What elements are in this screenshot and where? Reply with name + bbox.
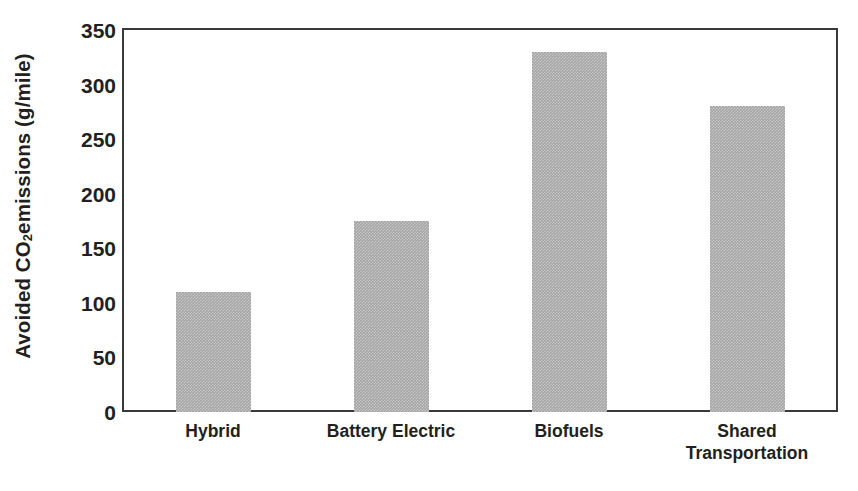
y-tick-label: 350: [44, 20, 116, 41]
plot-area: [124, 30, 836, 412]
y-tick-label: 150: [44, 238, 116, 259]
x-tick-label-shared-transportation: Shared Transportation: [665, 420, 829, 465]
bar-biofuels: [532, 52, 607, 412]
y-axis-title: Avoided CO2 emissions (g/mile): [6, 0, 40, 412]
y-axis-title-before: Avoided CO: [11, 241, 35, 359]
y-tick-label: 100: [44, 292, 116, 313]
y-tick-label: 0: [44, 402, 116, 423]
bar-chart: Avoided CO2 emissions (g/mile) 350 300 2…: [0, 0, 858, 491]
y-tick-label: 300: [44, 74, 116, 95]
y-axis-tick-labels: 350 300 250 200 150 100 50 0: [44, 0, 116, 491]
y-tick-label: 200: [44, 183, 116, 204]
bar-shared-transportation: [710, 106, 785, 412]
y-tick-label: 50: [44, 347, 116, 368]
x-axis-category-labels: Hybrid Battery Electric Biofuels Shared …: [124, 420, 836, 491]
x-tick-label-biofuels: Biofuels: [487, 420, 651, 442]
y-axis-title-after: emissions (g/mile): [11, 53, 35, 234]
x-tick-label-hybrid: Hybrid: [131, 420, 295, 442]
y-tick-label: 250: [44, 129, 116, 150]
bar-battery-electric: [354, 221, 429, 412]
y-axis-title-subscript: 2: [20, 234, 35, 241]
bar-hybrid: [176, 292, 251, 412]
x-tick-label-battery-electric: Battery Electric: [309, 420, 473, 442]
